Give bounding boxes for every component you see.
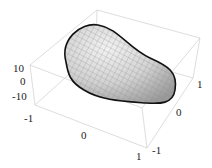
y-tick-1: 1 xyxy=(197,78,203,90)
z-tick-0: 0 xyxy=(20,75,26,87)
z-axis-ticks: 10 0 -10 xyxy=(12,62,27,102)
y-tick-0: 0 xyxy=(176,106,182,118)
x-tick-1: 1 xyxy=(136,150,142,162)
surface xyxy=(55,15,185,110)
x-axis-ticks: -1 0 1 xyxy=(24,112,142,162)
z-tick-10: 10 xyxy=(13,62,25,74)
y-tick-neg1: -1 xyxy=(152,144,161,156)
surface-plot: 10 0 -10 -1 0 1 -1 0 1 xyxy=(0,0,212,168)
z-tick-neg10: -10 xyxy=(12,90,27,102)
x-tick-0: 0 xyxy=(81,129,87,141)
x-tick-neg1: -1 xyxy=(24,112,33,124)
